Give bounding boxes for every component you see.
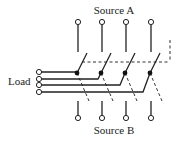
load-label: Load bbox=[8, 75, 31, 87]
source-a-label: Source A bbox=[94, 4, 135, 16]
load-terminal-3 bbox=[36, 82, 41, 87]
terminal-a4 bbox=[148, 19, 153, 24]
terminal-a3 bbox=[123, 19, 128, 24]
terminal-a2 bbox=[99, 19, 104, 24]
terminal-b3 bbox=[123, 115, 128, 120]
transfer-switch-diagram: Source A Source B Load bbox=[0, 0, 177, 141]
load-terminal-1 bbox=[36, 69, 41, 74]
load-terminal-4 bbox=[36, 89, 41, 94]
terminal-a1 bbox=[75, 19, 80, 24]
pivot-3 bbox=[123, 71, 128, 76]
load-conductors bbox=[41, 72, 150, 92]
pivot-points bbox=[75, 71, 153, 76]
terminal-b2 bbox=[99, 115, 104, 120]
pivot-4 bbox=[148, 71, 153, 76]
terminal-b4 bbox=[148, 115, 153, 120]
source-b-terminals bbox=[75, 101, 153, 121]
alternate-blade-positions bbox=[77, 73, 162, 101]
source-b-label: Source B bbox=[94, 124, 135, 136]
switch-blades bbox=[77, 53, 160, 73]
terminal-b1 bbox=[75, 115, 80, 120]
pivot-1 bbox=[75, 71, 80, 76]
pivot-2 bbox=[99, 71, 104, 76]
source-a-terminals bbox=[75, 19, 153, 52]
load-terminal-2 bbox=[36, 76, 41, 81]
load-terminals bbox=[36, 69, 41, 94]
